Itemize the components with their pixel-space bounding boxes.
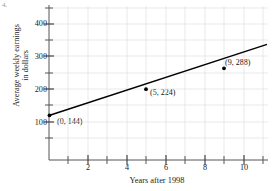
y-axis (44, 5, 54, 160)
data-point-2 (222, 66, 226, 70)
figure-canvas: 4. Average weekly earnings in dollars Ye… (0, 0, 272, 191)
data-point-0 (48, 113, 52, 117)
data-points (48, 66, 226, 117)
plot-area (0, 0, 272, 191)
grid-lines (49, 6, 268, 159)
data-point-1 (144, 87, 148, 91)
x-axis (49, 155, 268, 165)
